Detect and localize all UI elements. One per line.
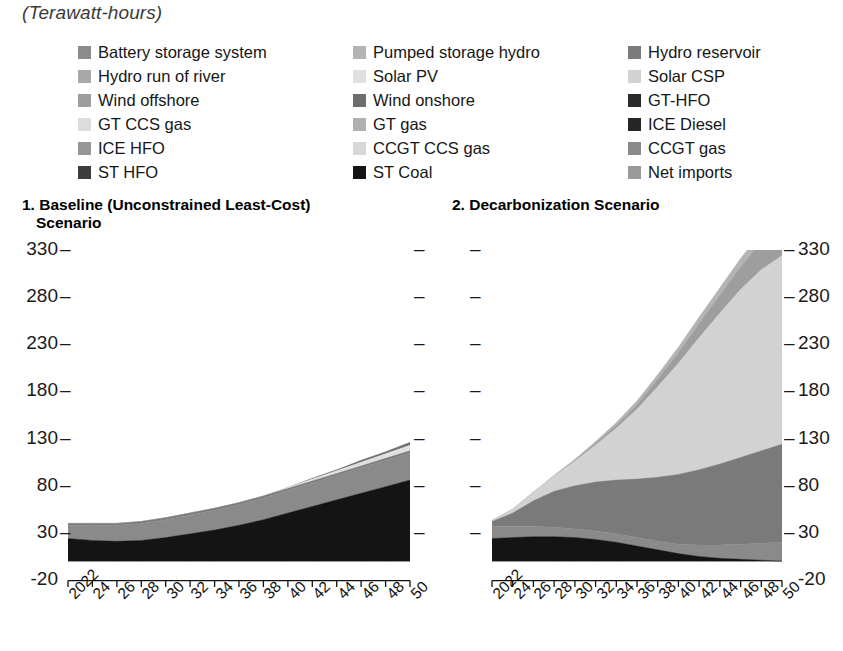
y-tick-label-right: 230 — [798, 333, 830, 352]
legend-label: CCGT CCS gas — [373, 140, 490, 156]
y-tick-dash-panel1-right: – — [414, 380, 425, 399]
legend-swatch-icon — [78, 142, 91, 155]
legend-item-ice-diesel: ICE Diesel — [628, 112, 828, 136]
legend-swatch-icon — [628, 70, 641, 83]
legend-item-battery-storage-system: Battery storage system — [78, 40, 353, 64]
legend-swatch-icon — [78, 70, 91, 83]
legend-item-ice-hfo: ICE HFO — [78, 136, 353, 160]
y-tick-dash-right: – — [784, 333, 795, 352]
legend-label: CCGT gas — [648, 140, 726, 156]
y-tick-dash-panel1-right: – — [414, 286, 425, 305]
legend-swatch-icon — [353, 46, 366, 59]
y-tick-label-right: 130 — [798, 428, 830, 447]
y-tick-dash-left: – — [60, 286, 71, 305]
legend-item-ccgt-ccs-gas: CCGT CCS gas — [353, 136, 628, 160]
y-tick-dash-panel2-left: – — [470, 333, 481, 352]
legend-label: Wind offshore — [98, 92, 200, 108]
legend-swatch-icon — [628, 142, 641, 155]
legend-label: Solar PV — [373, 68, 438, 84]
legend-swatch-icon — [78, 166, 91, 179]
legend-label: ICE Diesel — [648, 116, 726, 132]
y-tick-label-right: 30 — [798, 522, 819, 541]
legend-item-wind-offshore: Wind offshore — [78, 88, 353, 112]
y-tick-label-left: 180 — [6, 380, 58, 399]
legend-label: ST Coal — [373, 164, 432, 180]
y-tick-label-right: 180 — [798, 380, 830, 399]
legend-swatch-icon — [628, 118, 641, 131]
y-tick-dash-panel1-right: – — [414, 239, 425, 258]
legend-swatch-icon — [353, 166, 366, 179]
y-tick-dash-panel1-right: – — [414, 522, 425, 541]
y-tick-label-right: 80 — [798, 475, 819, 494]
y-tick-dash-right: – — [784, 286, 795, 305]
y-tick-label-right: -20 — [798, 569, 825, 588]
y-tick-label-left: 80 — [6, 475, 58, 494]
legend-item-pumped-storage-hydro: Pumped storage hydro — [353, 40, 628, 64]
y-tick-dash-panel2-left: – — [470, 522, 481, 541]
legend-item-net-imports: Net imports — [628, 160, 828, 184]
legend-label: Net imports — [648, 164, 732, 180]
legend-item-wind-onshore: Wind onshore — [353, 88, 628, 112]
legend-swatch-icon — [78, 46, 91, 59]
y-tick-dash-right: – — [784, 239, 795, 258]
legend-item-hydro-run-of-river: Hydro run of river — [78, 64, 353, 88]
y-tick-dash-right: – — [784, 380, 795, 399]
legend-swatch-icon — [78, 118, 91, 131]
legend-item-solar-csp: Solar CSP — [628, 64, 828, 88]
y-tick-dash-panel1-right: – — [414, 333, 425, 352]
legend-item-hydro-reservoir: Hydro reservoir — [628, 40, 828, 64]
y-tick-dash-right: – — [784, 428, 795, 447]
chart-panel-decarbonization — [492, 250, 782, 580]
legend-swatch-icon — [353, 94, 366, 107]
legend-label: Hydro run of river — [98, 68, 225, 84]
legend-swatch-icon — [353, 70, 366, 83]
legend-swatch-icon — [353, 118, 366, 131]
y-tick-label-right: 280 — [798, 286, 830, 305]
legend-item-st-hfo: ST HFO — [78, 160, 353, 184]
y-tick-dash-left: – — [60, 333, 71, 352]
legend-label: Battery storage system — [98, 44, 267, 60]
y-tick-dash-panel2-left: – — [470, 286, 481, 305]
y-tick-label-left: -20 — [6, 569, 58, 588]
legend-label: Solar CSP — [648, 68, 725, 84]
legend-item-st-coal: ST Coal — [353, 160, 628, 184]
legend-item-gt-gas: GT gas — [353, 112, 628, 136]
baseline-area-svg — [68, 250, 410, 580]
legend-swatch-icon — [353, 142, 366, 155]
panel-1-title-line2: Scenario — [22, 214, 322, 232]
y-tick-label-right: 330 — [798, 239, 830, 258]
units-title: (Terawatt-hours) — [22, 2, 162, 24]
legend-item-solar-pv: Solar PV — [353, 64, 628, 88]
legend-swatch-icon — [628, 166, 641, 179]
y-tick-dash-left: – — [60, 428, 71, 447]
panel-1-title-line1: 1. Baseline (Unconstrained Least-Cost) — [22, 196, 311, 213]
y-tick-dash-panel1-right: – — [414, 428, 425, 447]
legend-label: ICE HFO — [98, 140, 165, 156]
y-tick-dash-left: – — [60, 475, 71, 494]
panel-1-title: 1. Baseline (Unconstrained Least-Cost) S… — [22, 196, 322, 232]
y-tick-dash-left: – — [60, 380, 71, 399]
decarbonization-area-svg — [492, 250, 782, 580]
legend-label: GT-HFO — [648, 92, 710, 108]
y-tick-label-left: 330 — [6, 239, 58, 258]
y-tick-dash-panel1-right: – — [414, 475, 425, 494]
y-tick-dash-panel2-left: – — [470, 428, 481, 447]
legend-swatch-icon — [78, 94, 91, 107]
legend-item-gt-hfo: GT-HFO — [628, 88, 828, 112]
chart-panel-baseline — [68, 250, 410, 580]
legend-label: Pumped storage hydro — [373, 44, 540, 60]
y-tick-dash-left: – — [60, 522, 71, 541]
legend-label: ST HFO — [98, 164, 158, 180]
y-tick-label-left: 30 — [6, 522, 58, 541]
y-tick-dash-right: – — [784, 475, 795, 494]
legend-label: Hydro reservoir — [648, 44, 761, 60]
legend-label: GT gas — [373, 116, 427, 132]
y-tick-label-left: 230 — [6, 333, 58, 352]
y-tick-dash-right: – — [784, 522, 795, 541]
y-tick-dash-panel2-left: – — [470, 475, 481, 494]
panel-2-title: 2. Decarbonization Scenario — [452, 196, 782, 214]
y-tick-dash-panel2-left: – — [470, 239, 481, 258]
legend-item-ccgt-gas: CCGT gas — [628, 136, 828, 160]
y-tick-label-left: 280 — [6, 286, 58, 305]
y-tick-label-left: 130 — [6, 428, 58, 447]
